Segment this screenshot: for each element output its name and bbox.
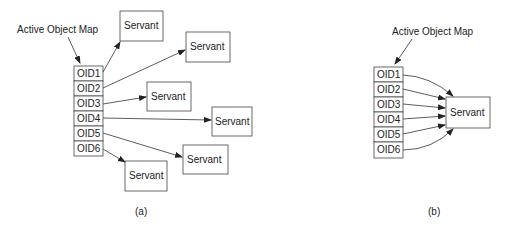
oid-label: OID4 [377, 114, 401, 125]
arrow-oid2 [403, 89, 445, 99]
oid-label: OID4 [77, 113, 101, 124]
oid-label: OID6 [377, 144, 401, 155]
active-object-map-label-b: Active Object Map [392, 26, 474, 37]
caption-a: (a) [135, 206, 147, 217]
diagram-b: Active Object Map OID1 OID2 OID3 OID4 OI… [374, 26, 490, 217]
oid-table-a: OID1 OID2 OID3 OID4 OID5 OID6 [74, 66, 103, 156]
servant-label: Servant [129, 170, 164, 181]
caption-b: (b) [428, 206, 440, 217]
active-object-map-label-a: Active Object Map [17, 24, 99, 35]
oid-label: OID1 [377, 69, 401, 80]
diagram-a: Active Object Map OID1 OID2 OID3 OID4 OI… [17, 11, 252, 217]
arrow-oid6 [103, 149, 125, 162]
active-object-map-diagrams: Active Object Map OID1 OID2 OID3 OID4 OI… [0, 0, 505, 230]
servant-label: Servant [190, 41, 225, 52]
arrow-oid1 [103, 42, 120, 72]
oid-label: OID6 [77, 143, 101, 154]
servant-label: Servant [187, 154, 222, 165]
arrow-oid5 [403, 125, 445, 134]
arrow-oid5 [103, 133, 182, 157]
oid-to-servant-arrows-b [403, 75, 453, 150]
oid-label: OID2 [377, 84, 401, 95]
oid-label: OID3 [377, 99, 401, 110]
oid-label: OID2 [77, 83, 101, 94]
label-pointer-arrow-a [68, 37, 80, 63]
servant-label: Servant [151, 91, 186, 102]
oid-label: OID5 [77, 128, 101, 139]
arrow-oid4 [403, 116, 445, 119]
oid-label: OID3 [77, 98, 101, 109]
arrow-oid4 [103, 118, 211, 120]
servant-label: Servant [124, 20, 159, 31]
oid-label: OID1 [77, 68, 101, 79]
servant-label: Servant [450, 107, 485, 118]
arrow-oid3 [403, 104, 445, 108]
servant-label: Servant [215, 116, 250, 127]
arrow-oid3 [103, 97, 146, 104]
oid-table-b: OID1 OID2 OID3 OID4 OID5 OID6 [374, 67, 403, 158]
servant-boxes-a: Servant Servant Servant Servant Servant … [120, 11, 252, 191]
label-pointer-arrow-b [395, 39, 412, 64]
arrow-oid1 [403, 75, 453, 96]
oid-label: OID5 [377, 129, 401, 140]
